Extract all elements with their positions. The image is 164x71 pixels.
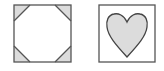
heart-square-icon	[82, 0, 164, 71]
heart-icon	[107, 14, 147, 57]
outer-square	[14, 5, 71, 62]
figure-heart-square	[82, 0, 164, 71]
figure-octagon-square	[0, 0, 82, 71]
octagon-square-icon	[0, 0, 82, 71]
